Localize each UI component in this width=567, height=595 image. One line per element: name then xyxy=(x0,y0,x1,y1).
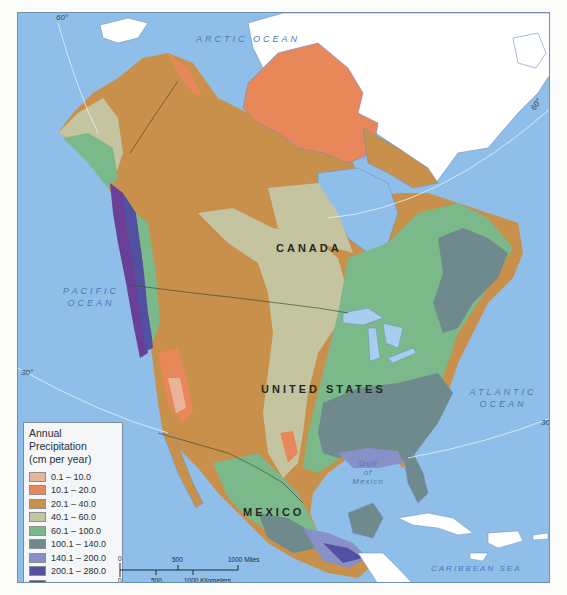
atlantic-ocean-label: ATLANTIC OCEAN xyxy=(468,386,538,410)
jamaica xyxy=(470,553,488,561)
united-states-label: UNITED STATES xyxy=(261,383,386,395)
florida xyxy=(403,453,428,503)
legend-item: 140.1 – 200.0 xyxy=(29,551,117,565)
siberia-tip xyxy=(100,18,148,43)
legend-title-line2: Precipitation xyxy=(29,440,117,453)
scale-miles-zero: 0 xyxy=(118,555,122,562)
legend-swatch xyxy=(29,539,46,549)
legend-swatch xyxy=(29,499,46,509)
gulf-of-mexico-label: Gulf of Mexico xyxy=(347,459,389,486)
mexico-label: MEXICO xyxy=(243,506,304,518)
scale-bar: 0 500 1000 Miles 0 500 1000 Kilometers xyxy=(118,553,278,583)
gulf-line1: Gulf xyxy=(347,459,389,468)
scale-km-1000: 1000 Kilometers xyxy=(184,577,231,583)
legend-title-line1: Annual xyxy=(29,427,117,440)
legend-swatch xyxy=(29,485,46,495)
legend-label: 200.1 – 280.0 xyxy=(51,566,106,576)
legend-label: 40.1 – 60.0 xyxy=(51,512,96,522)
legend-swatch xyxy=(29,472,46,482)
legend-item: 40.1 – 60.0 xyxy=(29,511,117,525)
legend-title-line3: (cm per year) xyxy=(29,453,117,466)
legend-label: 20.1 – 40.0 xyxy=(51,499,96,509)
legend-item: 0.1 – 10.0 xyxy=(29,470,117,484)
scale-km-zero: 0 xyxy=(118,577,122,583)
legend-item: 10.1 – 20.0 xyxy=(29,484,117,498)
atlantic-line2: OCEAN xyxy=(468,398,538,410)
latitude-60-west-label: 60° xyxy=(56,13,68,22)
legend-swatch xyxy=(29,553,46,563)
pacific-line2: OCEAN xyxy=(56,297,126,309)
legend-label: 60.1 – 100.0 xyxy=(51,526,101,536)
cuba xyxy=(398,513,473,535)
canada-label: CANADA xyxy=(276,242,342,254)
yucatan xyxy=(348,503,383,538)
puerto-rico xyxy=(533,533,548,540)
latitude-30-east-label: 30° xyxy=(541,418,550,427)
legend-label: 280.1 – 560.0 xyxy=(51,580,106,583)
legend-label: 100.1 – 140.0 xyxy=(51,539,106,549)
gulf-line2: of xyxy=(347,468,389,477)
hispaniola xyxy=(488,531,523,548)
scale-km-500: 500 xyxy=(151,577,162,583)
legend-item: 280.1 – 560.0 xyxy=(29,578,117,583)
scale-miles-500: 500 xyxy=(172,556,183,563)
legend-swatch xyxy=(29,566,46,576)
legend-label: 10.1 – 20.0 xyxy=(51,485,96,495)
legend-item: 20.1 – 40.0 xyxy=(29,497,117,511)
legend-title: Annual Precipitation (cm per year) xyxy=(29,427,117,466)
pacific-line1: PACIFIC xyxy=(56,285,126,297)
scale-miles-1000: 1000 Miles xyxy=(228,556,259,563)
gulf-line3: Mexico xyxy=(347,477,389,486)
legend-swatch xyxy=(29,526,46,536)
legend-item: 200.1 – 280.0 xyxy=(29,565,117,579)
legend-item: 100.1 – 140.0 xyxy=(29,538,117,552)
legend-item: 60.1 – 100.0 xyxy=(29,524,117,538)
arctic-ocean-label: ARCTIC OCEAN xyxy=(196,33,300,45)
latitude-30-west-label: 30° xyxy=(21,368,33,377)
legend-swatch xyxy=(29,580,46,583)
map-frame: ARCTIC OCEAN PACIFIC OCEAN ATLANTIC OCEA… xyxy=(17,12,550,583)
atlantic-line1: ATLANTIC xyxy=(468,386,538,398)
legend-label: 140.1 – 200.0 xyxy=(51,553,106,563)
legend-swatch xyxy=(29,512,46,522)
legend-label: 0.1 – 10.0 xyxy=(51,472,91,482)
caribbean-sea-label: CARIBBEAN SEA xyxy=(431,563,521,575)
pacific-ocean-label: PACIFIC OCEAN xyxy=(56,285,126,309)
legend: Annual Precipitation (cm per year) 0.1 –… xyxy=(23,422,123,583)
